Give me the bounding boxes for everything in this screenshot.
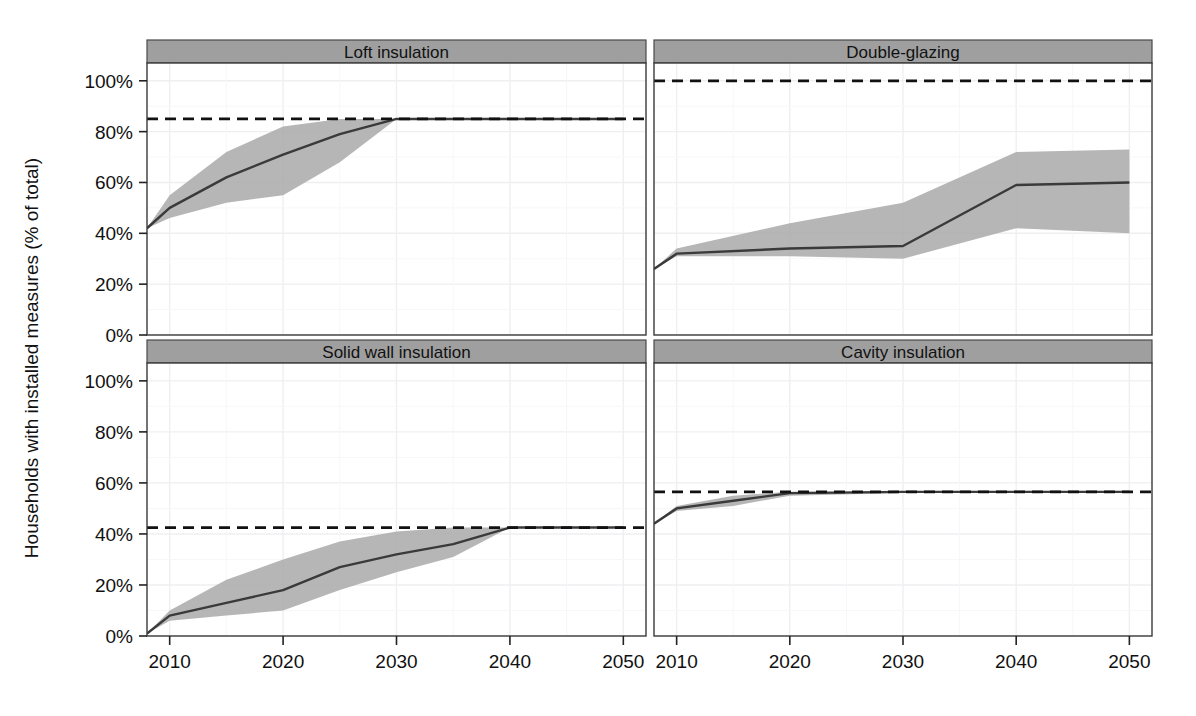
y-axis-label: Households with installed measures (% of… bbox=[21, 158, 42, 558]
y-tick-label: 80% bbox=[95, 422, 133, 443]
facet-chart-svg: Households with installed measures (% of… bbox=[0, 0, 1196, 716]
y-tick-label: 40% bbox=[95, 223, 133, 244]
y-tick-label: 60% bbox=[95, 473, 133, 494]
x-tick-label: 2020 bbox=[769, 651, 811, 672]
panel-double-glazing: Double-glazing bbox=[654, 40, 1152, 335]
x-tick-label: 2030 bbox=[882, 651, 924, 672]
x-tick-label: 2030 bbox=[375, 651, 417, 672]
x-tick-label: 2050 bbox=[602, 651, 644, 672]
y-tick-label: 60% bbox=[95, 172, 133, 193]
y-tick-label: 80% bbox=[95, 122, 133, 143]
x-tick-label: 2050 bbox=[1108, 651, 1150, 672]
y-tick-label: 0% bbox=[106, 626, 134, 647]
y-axis-label-group: Households with installed measures (% of… bbox=[21, 158, 42, 558]
panels-layer: Loft insulationDouble-glazingSolid wall … bbox=[147, 40, 1152, 636]
x-tick-label: 2010 bbox=[655, 651, 697, 672]
panel-title: Loft insulation bbox=[344, 43, 449, 62]
y-tick-label: 20% bbox=[95, 274, 133, 295]
x-tick-label: 2010 bbox=[149, 651, 191, 672]
panel-loft-insulation: Loft insulation bbox=[147, 40, 646, 335]
y-tick-label: 100% bbox=[84, 371, 133, 392]
panel-cavity-insulation: Cavity insulation bbox=[654, 340, 1152, 636]
y-tick-label: 0% bbox=[106, 325, 134, 346]
x-tick-label: 2020 bbox=[262, 651, 304, 672]
y-tick-label: 20% bbox=[95, 575, 133, 596]
panel-solid-wall-insulation: Solid wall insulation bbox=[147, 340, 646, 636]
panel-title: Solid wall insulation bbox=[322, 343, 470, 362]
x-tick-label: 2040 bbox=[995, 651, 1037, 672]
x-tick-label: 2040 bbox=[489, 651, 531, 672]
panel-title: Double-glazing bbox=[846, 43, 959, 62]
y-tick-label: 100% bbox=[84, 71, 133, 92]
y-tick-label: 40% bbox=[95, 524, 133, 545]
chart-figure: Households with installed measures (% of… bbox=[0, 0, 1196, 716]
panel-title: Cavity insulation bbox=[841, 343, 965, 362]
